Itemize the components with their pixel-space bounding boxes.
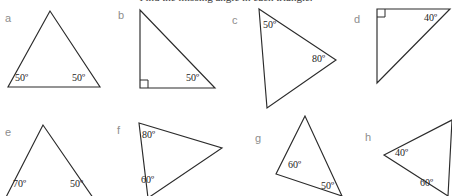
angle-label-c-2: 80º xyxy=(312,54,325,64)
triangle-b xyxy=(140,10,215,88)
item-letter-b: b xyxy=(118,10,124,21)
angle-label-b-1: 50º xyxy=(186,73,199,83)
item-letter-d: d xyxy=(354,14,360,25)
triangle-h xyxy=(384,120,452,196)
angle-label-h-1: 40º xyxy=(395,148,408,158)
item-letter-f: f xyxy=(117,125,120,136)
angle-label-g-1: 60º xyxy=(288,160,301,170)
triangle-worksheet: Find the missing angle in each triangle.… xyxy=(0,0,452,196)
triangle-figures-canvas xyxy=(0,0,452,196)
item-letter-g: g xyxy=(255,133,261,144)
angle-label-g-2: 50º xyxy=(321,181,334,191)
angle-label-f-2: 60º xyxy=(141,175,154,185)
right-angle-marker-d xyxy=(377,9,385,17)
item-letter-a: a xyxy=(5,13,11,24)
angle-label-e-2: 50º xyxy=(70,179,83,189)
item-letter-c: c xyxy=(232,15,238,26)
angle-label-d-1: 40º xyxy=(424,13,437,23)
right-angle-marker-b xyxy=(140,80,148,88)
angle-label-a-2: 50º xyxy=(72,73,85,83)
angle-label-c-1: 50º xyxy=(263,20,276,30)
angle-label-h-2: 60º xyxy=(420,178,433,188)
triangle-d xyxy=(377,9,450,83)
angle-label-a-1: 50º xyxy=(15,73,28,83)
angle-label-f-1: 80º xyxy=(142,130,155,140)
angle-label-e-1: 70º xyxy=(13,179,26,189)
item-letter-e: e xyxy=(5,127,11,138)
item-letter-h: h xyxy=(365,132,371,143)
